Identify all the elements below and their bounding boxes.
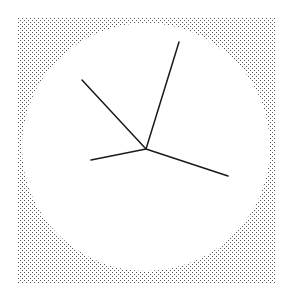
- clock-figure: [0, 0, 289, 307]
- clock-drawing: [0, 0, 289, 307]
